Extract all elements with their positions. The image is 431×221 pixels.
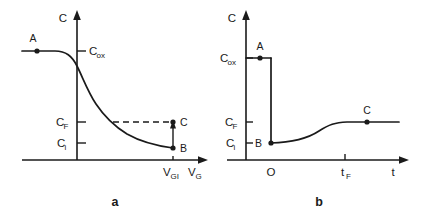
panel-a-ytick-ci-sub: i (65, 143, 67, 152)
panel-a-point-A-label: A (29, 32, 36, 44)
panel-a-cv-curve (22, 51, 173, 148)
panel-b-y-axis (242, 10, 250, 160)
panel-b-point-A: A (256, 40, 263, 61)
panel-a-point-C-label: C (180, 116, 188, 128)
panel-b-caption: b (315, 195, 323, 209)
panel-b-ytick-cf-sub: F (233, 122, 238, 131)
panel-a-ytick-cf-sub: F (64, 122, 69, 131)
panel-b-ytick-ci-sub: i (234, 143, 236, 152)
panel-b-point-A-label: A (256, 40, 263, 52)
panel-b-x-axis (227, 156, 409, 164)
panel-a-point-B-label: B (180, 142, 187, 154)
panel-b-origin-label: O (267, 166, 276, 178)
panel-a-ytick-cox-sub: ox (97, 51, 105, 60)
panel-b-point-C-label: C (363, 104, 371, 116)
panel-b-point-B-label: B (255, 137, 262, 149)
panel-a-x-axis (22, 156, 208, 164)
panel-b-ytick-label-cox: C ox (220, 52, 236, 67)
panel-a-ytick-label-ci: C i (57, 137, 67, 152)
panel-a-y-axis (73, 10, 81, 160)
panel-b-transient-curve (271, 122, 399, 143)
panel-b-ytick-cox-sub: ox (228, 58, 236, 67)
figure-container: C C ox C F C i V GI (0, 0, 431, 221)
panel-b-ytick-label-ci: C i (226, 137, 236, 152)
panel-a-xtick-label-vgi: V GI (163, 166, 179, 181)
panel-b-x-axis-label: t (391, 166, 395, 178)
panel-a-xtick-vgi-sub: GI (171, 172, 179, 181)
panel-b-xtick-tf-base: t (341, 166, 345, 178)
panel-b-xtick-label-tf: t F (341, 166, 351, 181)
panel-b-ytick-label-cf: C F (225, 116, 238, 131)
panel-a-ytick-label-cf: C F (56, 116, 69, 131)
panel-a-x-axis-label: V G (188, 166, 202, 181)
panel-a-y-ticks (77, 51, 86, 143)
panel-a-y-axis-label: C (59, 12, 67, 24)
panel-b-chart: C C ox C F C i O t F (215, 0, 431, 221)
panel-b-xtick-tf-sub: F (346, 172, 351, 181)
panel-b-y-ticks (246, 58, 253, 143)
panel-b-y-axis-label: C (228, 12, 236, 24)
panel-a-ytick-label-cox: C ox (89, 45, 105, 60)
panel-a-chart: C C ox C F C i V GI (0, 0, 215, 221)
panel-a-caption: a (112, 195, 120, 209)
panel-a-x-axis-label-sub: G (196, 172, 202, 181)
